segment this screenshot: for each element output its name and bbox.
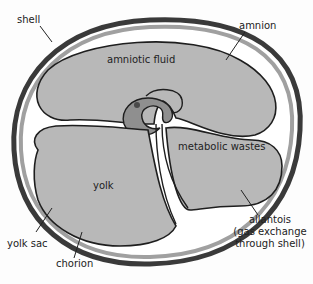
embryo-eye bbox=[134, 102, 140, 108]
label-allantois: allantois bbox=[228, 214, 312, 226]
label-metabolic-wastes: metabolic wastes bbox=[178, 141, 265, 153]
shell-leader bbox=[40, 26, 52, 42]
label-chorion: chorion bbox=[56, 258, 93, 270]
label-amnion: amnion bbox=[239, 20, 276, 32]
amniotic-egg-diagram: shell amnion amniotic fluid metabolic wa… bbox=[0, 0, 313, 284]
label-allantois-group: allantois (gas exchange through shell) bbox=[228, 214, 312, 250]
label-allantois-shell: through shell) bbox=[228, 238, 312, 250]
label-yolk: yolk bbox=[93, 180, 114, 192]
label-amniotic-fluid: amniotic fluid bbox=[107, 54, 175, 66]
label-yolk-sac: yolk sac bbox=[7, 238, 48, 250]
label-allantois-gas: (gas exchange bbox=[228, 226, 312, 238]
label-shell: shell bbox=[17, 14, 40, 26]
